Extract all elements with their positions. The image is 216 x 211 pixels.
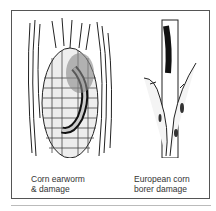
- european-corn-borer-illustration: [140, 18, 200, 158]
- figure-caption-corn-earworm: Corn earworm & damage: [31, 174, 85, 194]
- figure-caption-corn-borer: European corn borer damage: [134, 174, 190, 194]
- caption-line: European corn: [134, 174, 190, 184]
- corn-earworm-illustration: [22, 18, 117, 158]
- caption-line: borer damage: [134, 184, 190, 194]
- caption-line: & damage: [31, 184, 85, 194]
- divider: [11, 205, 211, 206]
- caption-line: Corn earworm: [31, 174, 85, 184]
